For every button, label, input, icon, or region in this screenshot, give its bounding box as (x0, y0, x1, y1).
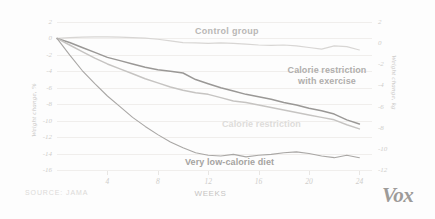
plot-area (57, 22, 372, 170)
series-label-cr-exercise-line1: Calorie restriction (271, 65, 383, 76)
x-tick-mark (359, 171, 360, 175)
x-tick-mark (309, 171, 310, 175)
y-tick-label-left: -16 (32, 166, 52, 174)
x-tick-label: 20 (299, 177, 319, 186)
y-axis-left-title: Weight change, % (30, 84, 38, 138)
y-tick-label-right: 2 (378, 18, 398, 26)
x-tick-mark (259, 171, 260, 175)
source-credit: SOURCE: JAMA (25, 189, 88, 196)
y-tick-label-left: -2 (32, 51, 52, 59)
x-tick-label: 16 (249, 177, 269, 186)
series-label-calorie-restriction-with-exercise: Calorie restriction with exercise (271, 65, 383, 87)
y-tick-label-right: 0 (378, 39, 398, 47)
x-axis-title: WEEKS (195, 189, 227, 198)
x-tick-label: 12 (198, 177, 218, 186)
chart-figure: 20-2-4-6-8-10-12-14-16 20-2-4-6-8-10-12 … (0, 0, 435, 219)
y-tick-label-left: -14 (32, 150, 52, 158)
y-tick-label-left: 0 (32, 34, 52, 42)
y-tick-label-right: -10 (378, 145, 398, 153)
series-lines-layer (57, 22, 372, 170)
series-label-control-group: Control group (195, 26, 259, 37)
y-tick-label-left: 2 (32, 18, 52, 26)
x-tick-mark (107, 171, 108, 175)
y-tick-label-right: -8 (378, 124, 398, 132)
series-label-calorie-restriction: Calorie restriction (222, 119, 301, 130)
series-line-very-low-calorie-diet (57, 38, 359, 157)
x-tick-label: 8 (148, 177, 168, 186)
x-tick-mark (208, 171, 209, 175)
x-tick-label: 4 (97, 177, 117, 186)
y-axis-right-title: Weight change, kg (390, 55, 398, 110)
x-tick-label: 24 (349, 177, 369, 186)
y-tick-label-right: -12 (378, 166, 398, 174)
gridline (57, 170, 372, 171)
series-svg (57, 22, 372, 170)
series-line-control (57, 37, 359, 50)
vox-logo: Vox (382, 185, 413, 206)
y-tick-label-left: -4 (32, 67, 52, 75)
x-tick-mark (158, 171, 159, 175)
series-label-cr-exercise-line2: with exercise (271, 76, 383, 87)
series-label-very-low-calorie-diet: Very low-calorie diet (185, 157, 274, 168)
